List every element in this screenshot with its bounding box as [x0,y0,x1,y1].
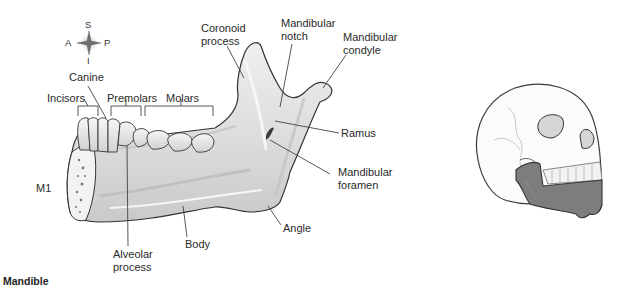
compass-posterior: P [104,37,110,48]
figure-title: Mandible [3,275,49,287]
label-premolars: Premolars [107,92,157,105]
label-view-m1: M1 [36,182,51,195]
label-molars: Molars [166,92,199,105]
label-mandibular-notch: Mandibular notch [281,17,335,42]
mandible-illustration [0,0,619,290]
skull-illustration [477,84,602,218]
compass-anterior: A [65,37,71,48]
label-mandibular-condyle: Mandibular condyle [343,31,397,56]
label-mandibular-foramen: Mandibular foramen [338,166,392,191]
label-body: Body [185,238,210,251]
compass-inferior: I [87,55,90,66]
label-ramus: Ramus [341,127,376,140]
label-angle: Angle [283,222,311,235]
compass-superior: S [85,19,91,30]
compass-rose-icon [77,31,101,55]
label-alveolar-process: Alveolar process [113,248,153,273]
label-canine: Canine [69,71,104,84]
label-coronoid-process: Coronoid process [201,22,246,47]
label-incisors: Incisors [47,92,85,105]
